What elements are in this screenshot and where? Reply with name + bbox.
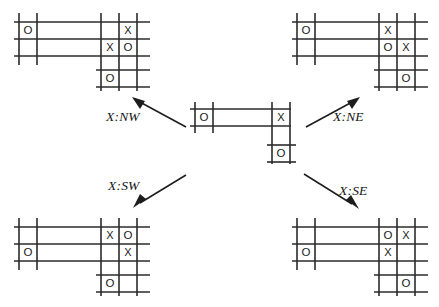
mark-x: X — [277, 111, 285, 123]
mark-o: O — [302, 246, 311, 258]
board-se: O X O X O — [288, 213, 434, 303]
label-se: X:SE — [339, 183, 368, 199]
figure-canvas: O X X O O O X O X O O X — [0, 0, 439, 307]
label-sw: X:SW — [108, 178, 140, 194]
mark-o: O — [24, 24, 33, 36]
mark-o: O — [124, 41, 133, 53]
mark-x: X — [402, 41, 410, 53]
mark-o: O — [402, 72, 411, 84]
mark-x: X — [124, 24, 132, 36]
board-sw: X O O X O — [10, 213, 156, 303]
mark-o: O — [24, 246, 33, 258]
mark-x: X — [124, 246, 132, 258]
board-ne: O X O X O — [288, 8, 434, 98]
mark-o: O — [302, 24, 311, 36]
mark-o: O — [384, 41, 393, 53]
mark-o: O — [200, 111, 209, 123]
mark-o: O — [384, 229, 393, 241]
mark-o: O — [124, 229, 133, 241]
mark-x: X — [384, 24, 392, 36]
mark-o: O — [106, 277, 115, 289]
mark-x: X — [106, 41, 114, 53]
label-nw: X:NW — [106, 109, 140, 125]
mark-x: X — [384, 246, 392, 258]
board-nw: O X X O O — [10, 8, 156, 98]
mark-x: X — [106, 229, 114, 241]
label-ne: X:NE — [333, 109, 364, 125]
mark-o: O — [106, 72, 115, 84]
center-board: O X O — [186, 100, 298, 170]
mark-o: O — [277, 147, 286, 159]
mark-o: O — [402, 277, 411, 289]
mark-x: X — [402, 229, 410, 241]
